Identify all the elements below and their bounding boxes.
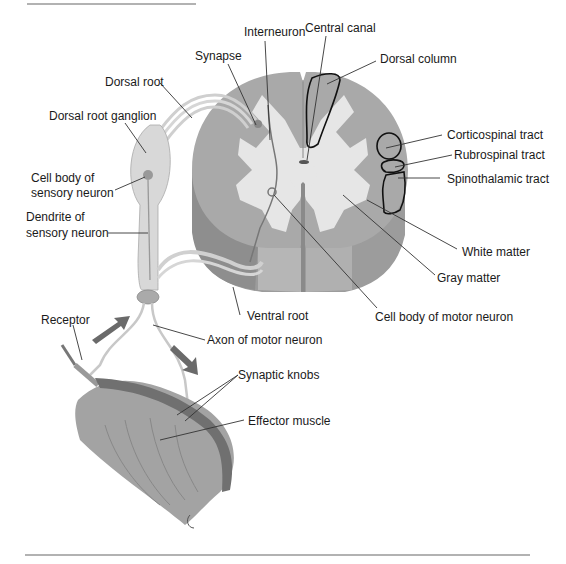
cord-front-col-left [258, 244, 302, 292]
dorsal-root-ganglion [131, 125, 171, 304]
efferent-arrow [170, 345, 198, 375]
label-synaptic-knobs: Synaptic knobs [238, 368, 319, 382]
cell-body-sensory [143, 170, 153, 180]
effector-muscle [75, 378, 234, 528]
label-receptor: Receptor [41, 313, 90, 327]
label-dorsal-root-ganglion: Dorsal root ganglion [49, 109, 156, 123]
label-gray-matter: Gray matter [437, 271, 500, 285]
central-canal [299, 160, 309, 164]
label-ventral-root: Ventral root [247, 309, 309, 323]
label-axon-motor: Axon of motor neuron [207, 333, 322, 347]
label-dorsal-root: Dorsal root [105, 75, 164, 89]
label-dendrite-sensory-1: Dendrite of [26, 210, 85, 224]
label-synapse: Synapse [195, 49, 242, 63]
reflex-arc-diagram: Interneuron Central canal Synapse Dorsal… [0, 0, 566, 564]
label-dorsal-column: Dorsal column [380, 52, 457, 66]
label-white-matter: White matter [462, 245, 530, 259]
label-cell-body-motor: Cell body of motor neuron [375, 310, 513, 324]
label-effector-muscle: Effector muscle [248, 414, 331, 428]
label-interneuron: Interneuron [244, 25, 305, 39]
cord-front-col-right [306, 244, 352, 292]
afferent-arrow [92, 316, 130, 344]
nerve-cut-end [137, 290, 159, 304]
label-spinothalamic-tract: Spinothalamic tract [447, 172, 550, 186]
label-dendrite-sensory-2: sensory neuron [26, 226, 109, 240]
label-cell-body-sensory-2: sensory neuron [31, 186, 114, 200]
label-corticospinal-tract: Corticospinal tract [447, 128, 544, 142]
label-cell-body-sensory-1: Cell body of [31, 171, 95, 185]
anterior-fissure [301, 182, 305, 292]
label-rubrospinal-tract: Rubrospinal tract [454, 148, 545, 162]
label-central-canal: Central canal [305, 21, 376, 35]
